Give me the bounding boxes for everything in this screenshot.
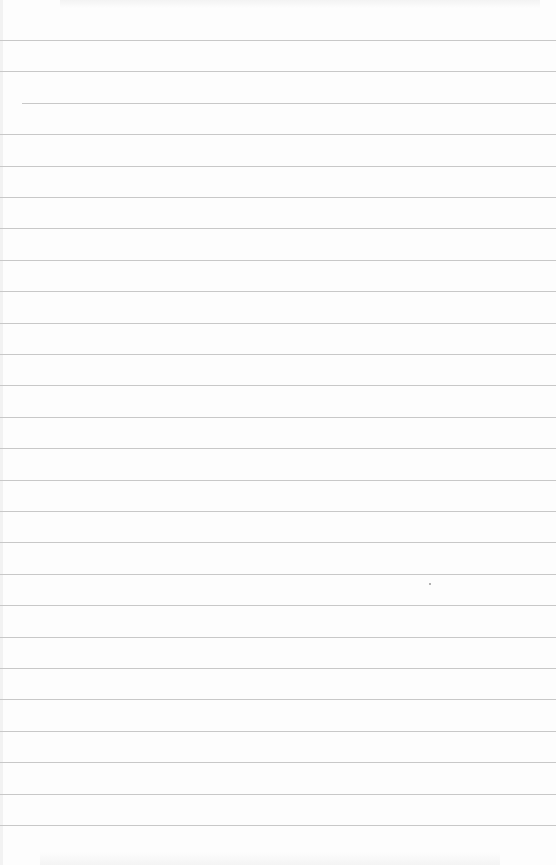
ink-speck — [429, 583, 431, 585]
ruled-line — [0, 668, 556, 669]
paper-sheet — [0, 0, 556, 865]
ruled-line — [0, 354, 556, 355]
ruled-line — [0, 323, 556, 324]
ruled-line — [0, 40, 556, 41]
ruled-line — [0, 291, 556, 292]
ruled-line — [0, 794, 556, 795]
ruled-line — [0, 605, 556, 606]
ruled-line — [0, 71, 556, 72]
ruled-line — [0, 260, 556, 261]
ruled-line — [0, 825, 556, 826]
ruled-line — [0, 699, 556, 700]
ruled-line — [0, 134, 556, 135]
ruled-line — [0, 637, 556, 638]
ruled-line — [0, 166, 556, 167]
bottom-smudge — [40, 852, 500, 865]
ruled-line — [0, 511, 556, 512]
ruled-line — [0, 417, 556, 418]
paper-left-edge — [0, 0, 3, 865]
top-smudge — [60, 0, 540, 8]
ruled-line — [0, 385, 556, 386]
ruled-line — [0, 731, 556, 732]
ruled-line — [22, 103, 556, 104]
ruled-line — [0, 542, 556, 543]
ruled-line — [0, 574, 556, 575]
ruled-line — [0, 228, 556, 229]
ruled-line — [0, 448, 556, 449]
ruled-line — [0, 197, 556, 198]
ruled-line — [0, 762, 556, 763]
ruled-line — [0, 480, 556, 481]
